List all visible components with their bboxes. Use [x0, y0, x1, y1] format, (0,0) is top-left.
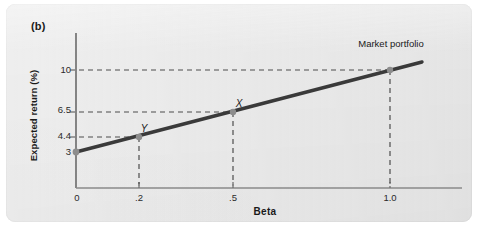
data-point-intercept: [73, 149, 80, 156]
security-market-line: [76, 62, 422, 152]
chart-plot-area: [0, 0, 492, 244]
data-point-market-portfolio: [387, 67, 393, 73]
data-point-x: [230, 109, 236, 115]
figure-panel-b: (b) Expected return (%) Beta 10 6.5 4.4 …: [0, 0, 492, 244]
data-point-y: [136, 134, 142, 140]
